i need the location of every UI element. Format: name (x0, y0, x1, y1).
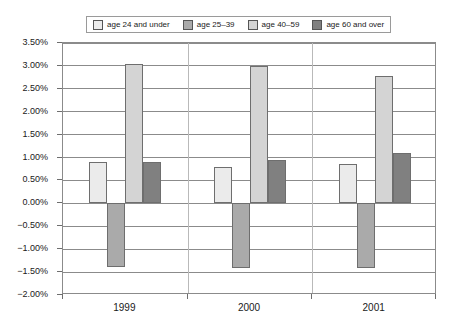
bar-2001-series-4 (393, 153, 411, 203)
bar-1999-series-4 (143, 162, 161, 203)
legend-swatch-icon-0 (93, 20, 103, 30)
bar-1999-series-1 (89, 162, 107, 203)
y-axis-tick-label: 0.00% (0, 197, 48, 207)
y-axis-tick-label: 3.50% (0, 37, 48, 47)
x-axis-tick-label: 2001 (344, 302, 404, 314)
legend-swatch-icon-1 (183, 20, 193, 30)
y-axis-tick-label: −1.50% (0, 266, 48, 276)
legend-label-0: age 24 and under (107, 20, 170, 29)
gridline (63, 43, 435, 44)
y-axis-tick-label: 1.50% (0, 129, 48, 139)
y-axis-tick-label: 0.50% (0, 174, 48, 184)
bar-2001-series-1 (339, 164, 357, 203)
x-axis-tick-mark (435, 294, 436, 299)
y-axis-tick-label: 1.00% (0, 152, 48, 162)
x-axis-tick-mark (187, 294, 188, 299)
chart-legend: age 24 and under age 25–39 age 40–59 age… (86, 16, 391, 33)
legend-item-1: age 25–39 (183, 20, 235, 30)
y-axis-tick-label: −0.50% (0, 220, 48, 230)
bar-2000-series-2 (232, 203, 250, 267)
bar-2001-series-3 (375, 76, 393, 203)
legend-label-1: age 25–39 (197, 20, 235, 29)
y-axis: 3.50%3.00%2.50%2.00%1.50%1.00%0.50%0.00%… (0, 0, 62, 322)
x-axis-tick-label: 1999 (94, 302, 154, 314)
x-axis-tick-mark (311, 294, 312, 299)
y-axis-tick-label: −1.00% (0, 243, 48, 253)
legend-item-2: age 40–59 (248, 20, 300, 30)
y-axis-tick-label: −2.00% (0, 289, 48, 299)
legend-swatch-icon-2 (248, 20, 258, 30)
bar-2000-series-1 (214, 167, 232, 204)
y-axis-tick-label: 2.50% (0, 83, 48, 93)
y-axis-tick-label: 2.00% (0, 106, 48, 116)
legend-label-2: age 40–59 (262, 20, 300, 29)
legend-item-0: age 24 and under (93, 20, 170, 30)
gridline (63, 272, 435, 273)
category-separator (188, 43, 189, 293)
category-separator (312, 43, 313, 293)
y-axis-tick-label: 3.00% (0, 60, 48, 70)
x-axis-tick-label: 2000 (219, 302, 279, 314)
legend-swatch-icon-3 (312, 20, 322, 30)
x-axis: 199920002001 (62, 294, 436, 322)
plot-area (62, 42, 436, 294)
bar-1999-series-2 (107, 203, 125, 266)
legend-label-3: age 60 and over (326, 20, 384, 29)
legend-item-3: age 60 and over (312, 20, 384, 30)
bar-2000-series-3 (250, 66, 268, 203)
bar-1999-series-3 (125, 64, 143, 204)
gridline (63, 65, 435, 66)
chart-container: age 24 and under age 25–39 age 40–59 age… (0, 0, 450, 322)
bar-2001-series-2 (357, 203, 375, 267)
bar-2000-series-4 (268, 160, 286, 204)
x-axis-tick-mark (62, 294, 63, 299)
